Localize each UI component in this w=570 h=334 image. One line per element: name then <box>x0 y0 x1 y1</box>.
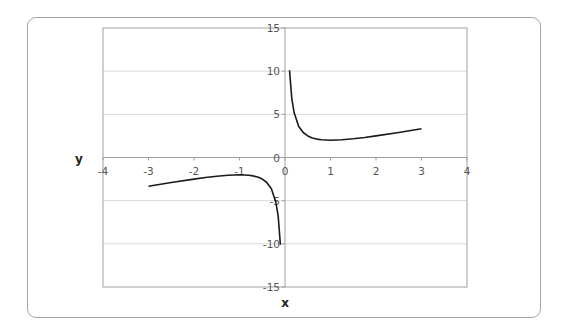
x-tick-label: 3 <box>418 165 425 177</box>
y-tick-label: 15 <box>267 22 280 34</box>
x-tick-label: 2 <box>373 165 380 177</box>
y-tick-label: 5 <box>273 108 280 120</box>
x-tick-label: 0 <box>282 165 289 177</box>
chart: -4-3-2-101234-15-10-5051015 x y <box>0 0 570 334</box>
series-line <box>149 175 281 245</box>
y-tick-label: 10 <box>267 65 280 77</box>
x-tick-label: -3 <box>143 165 153 177</box>
x-tick-label: 4 <box>464 165 471 177</box>
y-tick-label: -10 <box>263 238 280 250</box>
y-axis-label: y <box>75 152 83 166</box>
y-tick-label: 0 <box>273 152 280 164</box>
y-tick-label: -15 <box>263 281 280 293</box>
x-tick-label: -2 <box>189 165 199 177</box>
x-tick-label: -4 <box>98 165 109 177</box>
x-axis-label: x <box>281 296 289 310</box>
x-tick-label: 1 <box>327 165 334 177</box>
series-line <box>290 70 422 140</box>
